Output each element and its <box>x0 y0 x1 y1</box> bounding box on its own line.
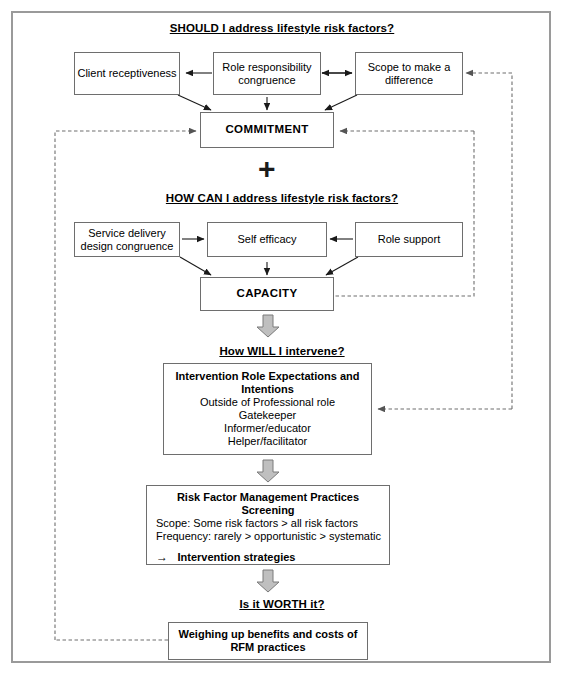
box-intervention-role-expectations: Intervention Role Expectations and Inten… <box>163 363 372 455</box>
box-weighing-line2: RFM practices <box>230 641 305 654</box>
block-arrow-intervention-to-practices <box>255 459 281 483</box>
heading-how-can: HOW CAN I address lifestyle risk factors… <box>0 192 564 204</box>
box-role-responsibility-congruence: Role responsibility congruence <box>213 52 321 95</box>
right-arrow-icon: → <box>156 550 168 564</box>
box-role-responsibility-congruence-line2: congruence <box>238 74 296 87</box>
diagram-page: SHOULD I address lifestyle risk factors?… <box>0 0 564 674</box>
box-practices-title-line1: Risk Factor Management Practices <box>177 491 359 504</box>
box-intervention-item-0: Outside of Professional role <box>200 396 335 409</box>
box-scope-line2: difference <box>385 74 433 87</box>
box-commitment: COMMITMENT <box>200 112 334 148</box>
plus-operator: + <box>258 154 276 184</box>
box-role-support-label: Role support <box>378 233 440 246</box>
block-arrow-practices-to-worth <box>255 569 281 593</box>
box-role-responsibility-congruence-line1: Role responsibility <box>222 61 311 74</box>
box-intervention-item-1: Gatekeeper <box>239 409 296 422</box>
block-arrow-capacity-to-intervene <box>255 314 281 338</box>
box-weighing-up-benefits-costs: Weighing up benefits and costs of RFM pr… <box>168 622 368 660</box>
box-weighing-line1: Weighing up benefits and costs of <box>179 628 358 641</box>
box-intervention-item-3: Helper/facilitator <box>228 435 307 448</box>
box-service-delivery-design-congruence: Service delivery design congruence <box>74 222 180 257</box>
box-intervention-title-line1: Intervention Role Expectations and <box>176 370 360 383</box>
box-practices-strategies: Intervention strategies <box>177 551 295 563</box>
heading-how-will: How WILL I intervene? <box>0 345 564 357</box>
box-client-receptiveness: Client receptiveness <box>74 52 180 95</box>
box-intervention-title-line2: Intentions <box>241 383 294 396</box>
box-commitment-label: COMMITMENT <box>225 123 308 137</box>
box-practices-strategies-row: → Intervention strategies <box>147 547 389 566</box>
box-scope-line1: Scope to make a <box>368 61 451 74</box>
box-capacity: CAPACITY <box>200 277 334 311</box>
box-client-receptiveness-label: Client receptiveness <box>77 67 176 80</box>
heading-should: SHOULD I address lifestyle risk factors? <box>0 22 564 34</box>
box-practices-scope: Scope: Some risk factors > all risk fact… <box>147 517 389 530</box>
box-role-support: Role support <box>355 222 463 257</box>
box-practices-frequency: Frequency: rarely > opportunistic > syst… <box>147 530 389 543</box>
box-risk-factor-management-practices: Risk Factor Management Practices Screeni… <box>146 485 390 565</box>
box-intervention-item-2: Informer/educator <box>224 422 311 435</box>
box-self-efficacy: Self efficacy <box>207 222 327 257</box>
heading-is-it-worth-it: Is it WORTH it? <box>0 598 564 610</box>
box-self-efficacy-label: Self efficacy <box>237 233 296 246</box>
box-scope-to-make-a-difference: Scope to make a difference <box>355 52 463 95</box>
box-service-delivery-line2: design congruence <box>81 240 174 253</box>
box-practices-title-line2: Screening <box>241 504 294 517</box>
box-service-delivery-line1: Service delivery <box>88 227 166 240</box>
box-capacity-label: CAPACITY <box>236 287 297 301</box>
